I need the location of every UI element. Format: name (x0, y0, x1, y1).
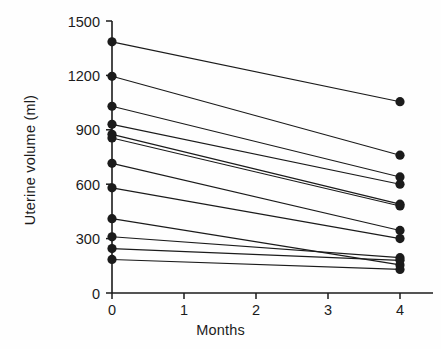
data-point (107, 133, 116, 142)
data-point (395, 226, 404, 235)
data-point (107, 232, 116, 241)
data-point (107, 102, 116, 111)
x-tick-label: 4 (396, 302, 404, 318)
uterine-volume-line-chart: 030060090012001500 01234 (0, 0, 441, 349)
data-point (107, 159, 116, 168)
data-point (395, 256, 404, 265)
x-tick-label: 1 (180, 302, 188, 318)
y-tick-label: 900 (76, 122, 100, 138)
data-point (395, 265, 404, 274)
series-line (112, 124, 400, 184)
series-lines (112, 42, 400, 270)
data-point (395, 180, 404, 189)
y-tick-label: 300 (76, 231, 100, 247)
series-line (112, 106, 400, 177)
data-point (107, 72, 116, 81)
series-line (112, 259, 400, 269)
figure-canvas: 030060090012001500 01234 Uterine volume … (0, 0, 441, 349)
data-point (395, 151, 404, 160)
y-tick-label: 1500 (68, 14, 100, 30)
data-point (107, 37, 116, 46)
y-tick-label: 0 (92, 286, 100, 302)
series-line (112, 76, 400, 155)
data-point (107, 120, 116, 129)
x-tick-label: 0 (108, 302, 116, 318)
data-point (107, 214, 116, 223)
x-tick-label: 3 (324, 302, 332, 318)
caption-remnant (6, 341, 436, 349)
series-line (112, 134, 400, 204)
y-axis-title: Uterine volume (ml) (22, 60, 38, 260)
data-point (107, 183, 116, 192)
series-markers (107, 37, 404, 274)
data-point (395, 97, 404, 106)
data-point (395, 234, 404, 243)
series-line (112, 42, 400, 102)
y-tick-labels: 030060090012001500 (68, 14, 100, 302)
data-point (107, 244, 116, 253)
x-axis-title: Months (0, 322, 441, 338)
axis-lines (112, 21, 433, 293)
x-tick-label: 2 (252, 302, 260, 318)
data-point (107, 255, 116, 264)
series-line (112, 219, 400, 265)
x-tick-labels: 01234 (108, 302, 404, 318)
data-point (395, 201, 404, 210)
series-line (112, 163, 400, 230)
y-tick-label: 1200 (68, 68, 100, 84)
y-tick-label: 600 (76, 177, 100, 193)
